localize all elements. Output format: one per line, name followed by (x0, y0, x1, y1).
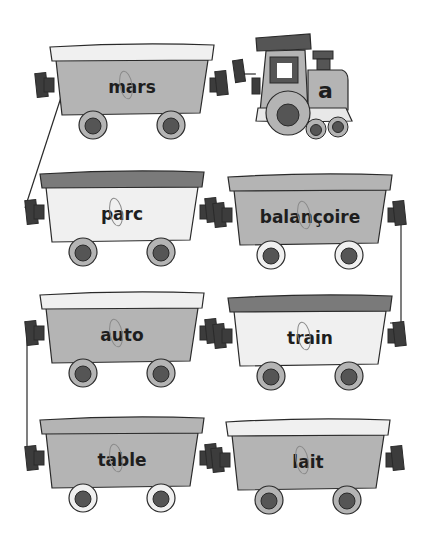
wagon-roof (40, 417, 204, 434)
coupler-left-joint (34, 451, 44, 465)
wagon-train: train (213, 295, 406, 390)
wagon-parc: parc (25, 171, 218, 266)
wagon-balançoire: balançoire (213, 174, 406, 269)
coupler-left-joint (222, 208, 232, 222)
wheel-hub (85, 118, 101, 134)
big-wheel-hub (277, 104, 299, 126)
wagon-lait: lait (211, 419, 404, 514)
coupler (252, 78, 260, 94)
cab-roof (256, 34, 311, 51)
wagon-roof (40, 171, 204, 188)
wagon-roof (228, 295, 392, 312)
wheel-hub (341, 369, 357, 385)
coupler-left-joint (44, 78, 54, 92)
coupler-right (215, 70, 228, 95)
coupler-left-joint (220, 453, 230, 467)
locomotive: a (233, 34, 352, 139)
coupler-left-joint (34, 205, 44, 219)
wagon-roof (228, 174, 392, 191)
wheel-hub (153, 245, 169, 261)
wheel-hub (263, 369, 279, 385)
coupler (233, 59, 246, 82)
wheel-hub (263, 248, 279, 264)
coupler-left-joint (34, 326, 44, 340)
wheel-hub (261, 493, 277, 509)
coupler-right (393, 321, 406, 346)
chimney-top (313, 51, 333, 59)
wagon-auto: auto (25, 292, 218, 387)
small-wheel-hub (333, 122, 344, 133)
wheel-hub (163, 118, 179, 134)
wheel-hub (75, 491, 91, 507)
wheel-hub (153, 366, 169, 382)
wagon-mars: mars (35, 44, 228, 139)
wagon-roof (40, 292, 204, 309)
wagon-roof (226, 419, 390, 436)
small-wheel-hub (311, 125, 322, 136)
chimney (317, 59, 330, 70)
train-worksheet: marsparcbalançoireautotraintablelait a (0, 0, 422, 547)
wagon-table: table (25, 417, 218, 512)
wheel-hub (153, 491, 169, 507)
wagon-roof (50, 44, 214, 61)
wheel-hub (339, 493, 355, 509)
coupler-right (393, 200, 406, 225)
wheel-hub (75, 366, 91, 382)
wheel-hub (75, 245, 91, 261)
coupler-left-joint (222, 329, 232, 343)
cab-window (277, 63, 292, 78)
locomotive-letter: a (318, 78, 333, 103)
wheel-hub (341, 248, 357, 264)
coupler-right (391, 445, 404, 470)
